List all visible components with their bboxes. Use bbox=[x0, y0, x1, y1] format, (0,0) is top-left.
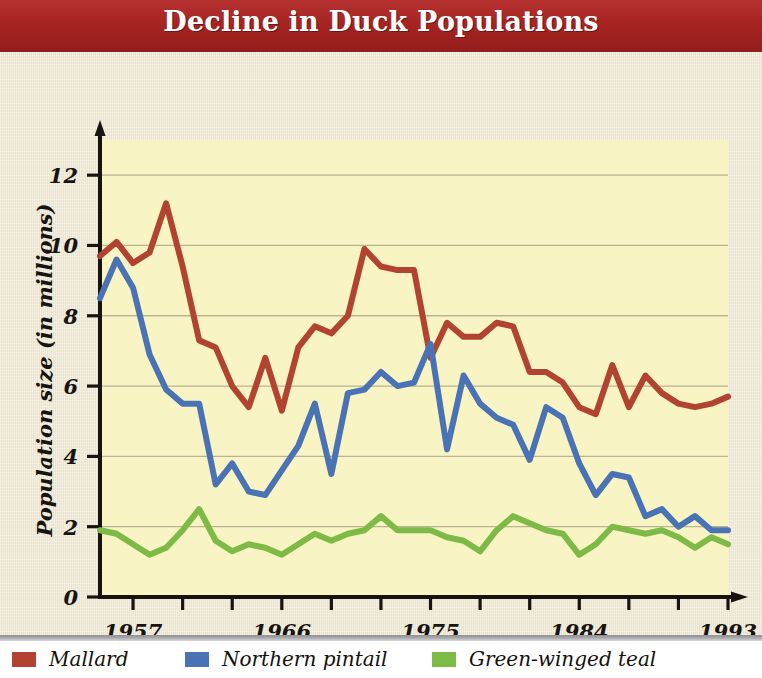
y-axis-tick-label: 8 bbox=[62, 304, 78, 329]
x-axis-tick-label: 1966 bbox=[253, 619, 312, 635]
legend-swatch-green-winged-teal bbox=[432, 652, 456, 667]
y-axis-tick-label: 6 bbox=[63, 374, 78, 399]
legend-item-mallard[interactable]: Mallard bbox=[12, 643, 128, 675]
legend-label-green-winged-teal: Green-winged teal bbox=[469, 647, 656, 671]
y-axis-tick-label: 12 bbox=[49, 163, 78, 188]
legend-item-green-winged-teal[interactable]: Green-winged teal bbox=[432, 643, 656, 675]
legend-divider bbox=[0, 635, 762, 641]
legend-label-northern-pintail: Northern pintail bbox=[222, 647, 388, 671]
x-axis-tick-label: 1957 bbox=[104, 619, 163, 635]
x-axis-tick-label: 1975 bbox=[401, 619, 459, 635]
y-axis-tick-label: 2 bbox=[62, 515, 78, 540]
legend-swatch-northern-pintail bbox=[185, 652, 209, 667]
legend-label-mallard: Mallard bbox=[49, 647, 128, 671]
x-axis-tick-label: 1984 bbox=[550, 619, 608, 635]
x-axis-tick-label: 1993 bbox=[699, 619, 757, 635]
legend-items: Mallard Northern pintail Green-winged te… bbox=[0, 643, 762, 678]
legend-swatch-mallard bbox=[12, 652, 36, 667]
chart-figure: 024681012 19571966197519841993 Populatio… bbox=[0, 52, 762, 635]
chart-legend: Mallard Northern pintail Green-winged te… bbox=[0, 635, 762, 678]
y-axis-tick-label: 4 bbox=[63, 444, 78, 469]
legend-item-northern-pintail[interactable]: Northern pintail bbox=[185, 643, 388, 675]
y-axis-title: Population size (in millions) bbox=[32, 203, 57, 537]
figure-paper: 024681012 19571966197519841993 Populatio… bbox=[0, 52, 762, 635]
y-axis-tick-label: 0 bbox=[63, 585, 78, 610]
x-axis-ticks: 19571966197519841993 bbox=[104, 597, 757, 635]
page-title: Decline in Duck Populations bbox=[0, 6, 762, 37]
line-chart: 024681012 19571966197519841993 Populatio… bbox=[0, 52, 762, 635]
title-banner: Decline in Duck Populations bbox=[0, 0, 762, 52]
